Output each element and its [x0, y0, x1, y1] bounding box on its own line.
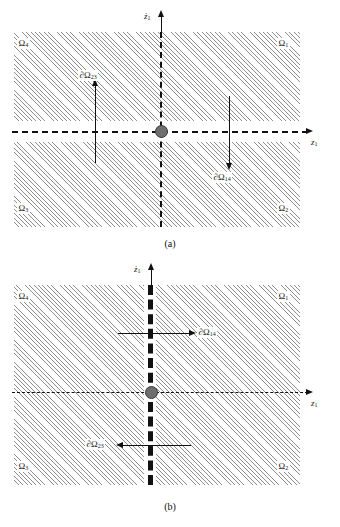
vertical-axis-label-a: ż1	[144, 12, 151, 21]
boundary-b-right-label: ∂Ω14	[197, 327, 217, 338]
boundary-a-down-arrowhead	[226, 163, 232, 170]
region-label-b-top-left-sub: 4	[25, 295, 28, 301]
boundary-a-down-label-text: ∂Ω	[214, 172, 225, 182]
region-label-a-bottom-right: Ω2	[277, 203, 290, 214]
boundary-b-left-label-sub: 23	[98, 443, 104, 449]
region-label-b-bottom-right-sub: 2	[285, 465, 288, 471]
region-label-b-top-right: Ω1	[277, 291, 290, 302]
region-b-right-band	[156, 285, 300, 485]
boundary-a-down-label: ∂Ω14	[212, 172, 232, 183]
region-label-a-top-left: Ω4	[17, 38, 30, 49]
horizontal-axis-arrow-a	[306, 128, 313, 134]
boundary-a-up-shaft	[95, 85, 96, 163]
vertical-axis-label-a-sub: 1	[148, 15, 151, 21]
origin-point-a	[155, 125, 168, 138]
horizontal-axis-label-a-sub: 1	[315, 141, 318, 147]
region-label-a-top-right-sub: 1	[285, 42, 288, 48]
boundary-b-left-arrowhead	[116, 442, 123, 448]
region-label-a-top-left-sub: 4	[25, 42, 28, 48]
horizontal-axis-label-a: z1	[311, 138, 318, 147]
region-a-lower-band	[14, 142, 300, 227]
vertical-switching-surface-b	[148, 285, 153, 485]
panel-a: ż1 z1 ∂Ω23 ∂Ω14 Ω4 Ω1 Ω3	[0, 0, 340, 263]
horizontal-axis-arrow-b	[306, 389, 313, 395]
boundary-a-up-label-text: ∂Ω	[80, 70, 91, 80]
boundary-b-right-label-sub: 14	[210, 331, 216, 337]
boundary-a-down-label-sub: 14	[225, 176, 231, 182]
boundary-b-left-label-text: ∂Ω	[87, 439, 98, 449]
panel-a-caption: (a)	[0, 238, 340, 249]
horizontal-axis-label-b-sub: 1	[315, 402, 318, 408]
region-label-a-bottom-right-sub: 2	[285, 207, 288, 213]
region-label-b-bottom-right: Ω2	[277, 461, 290, 472]
region-label-a-bottom-left: Ω3	[17, 203, 30, 214]
panel-b: ż1 z1 ∂Ω14 ∂Ω23 Ω4 Ω1 Ω3	[0, 263, 340, 527]
horizontal-axis-line-b	[12, 392, 308, 393]
boundary-a-up-label: ∂Ω23	[78, 70, 98, 81]
region-label-b-top-right-sub: 1	[285, 295, 288, 301]
region-label-a-bottom-left-sub: 3	[25, 207, 28, 213]
vertical-axis-arrow-b	[148, 263, 154, 270]
region-a-upper-band	[14, 32, 300, 121]
vertical-axis-label-b: ż1	[134, 265, 141, 274]
figure-root: ż1 z1 ∂Ω23 ∂Ω14 Ω4 Ω1 Ω3	[0, 0, 340, 527]
region-label-b-top-left: Ω4	[17, 291, 30, 302]
horizontal-axis-label-b: z1	[311, 399, 318, 408]
vertical-axis-label-b-sub: 1	[138, 268, 141, 274]
boundary-b-right-arrowhead	[189, 330, 196, 336]
region-label-b-bottom-left-sub: 3	[25, 465, 28, 471]
region-b-left-band	[14, 285, 144, 485]
vertical-axis-arrow-a	[158, 10, 164, 17]
boundary-b-right-shaft	[118, 333, 190, 334]
region-label-a-top-right: Ω1	[277, 38, 290, 49]
boundary-b-left-label: ∂Ω23	[85, 439, 105, 450]
boundary-b-left-shaft	[123, 445, 191, 446]
boundary-b-right-label-text: ∂Ω	[199, 327, 210, 337]
boundary-a-up-label-sub: 23	[91, 74, 97, 80]
origin-point-b	[145, 386, 158, 399]
panel-b-caption: (b)	[0, 501, 340, 512]
boundary-a-down-shaft	[229, 96, 230, 164]
region-label-b-bottom-left: Ω3	[17, 461, 30, 472]
